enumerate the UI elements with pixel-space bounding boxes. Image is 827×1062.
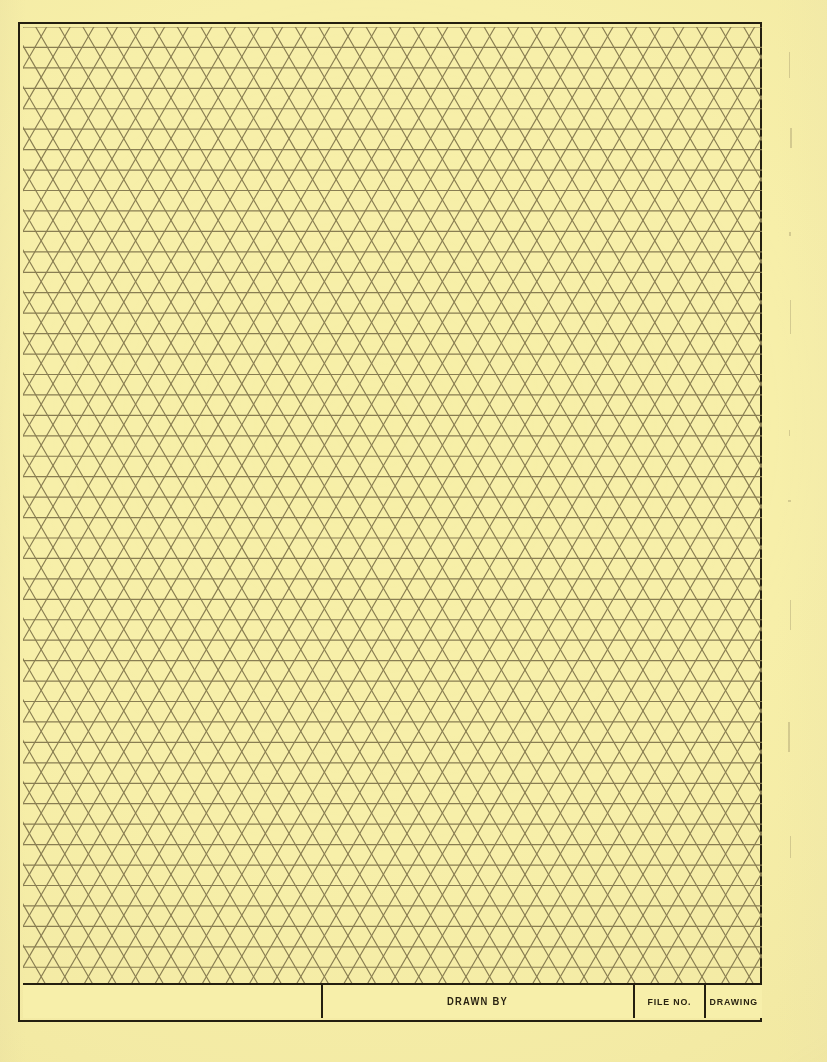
title-block-label-drawing: DRAWING [709, 996, 758, 1007]
scan-edge-mark [790, 300, 791, 334]
scan-edge-mark [790, 128, 792, 148]
title-block: DRAWN BY FILE NO. DRAWING [23, 983, 762, 1018]
scan-edge-mark [788, 722, 790, 752]
scan-edge-mark [789, 430, 790, 436]
title-block-cell-drawn-by[interactable]: DRAWN BY [323, 985, 635, 1018]
scan-edge-mark [789, 232, 791, 236]
scan-edge-mark [788, 500, 791, 502]
title-block-cell-drawing[interactable]: DRAWING [706, 985, 762, 1018]
title-block-cell-blank[interactable] [23, 985, 323, 1018]
title-block-label-drawn-by: DRAWN BY [447, 996, 508, 1007]
triangular-grid [23, 27, 762, 986]
scan-edge-mark [790, 600, 791, 630]
title-block-label-file-no: FILE NO. [647, 996, 691, 1007]
drawing-frame-border: DRAWN BY FILE NO. DRAWING [18, 22, 762, 1022]
triangular-grid-area [23, 27, 762, 986]
title-block-cell-file-no[interactable]: FILE NO. [635, 985, 706, 1018]
graph-paper-sheet: DRAWN BY FILE NO. DRAWING [0, 0, 827, 1062]
scan-edge-mark [790, 836, 791, 858]
scan-edge-mark [789, 52, 790, 78]
